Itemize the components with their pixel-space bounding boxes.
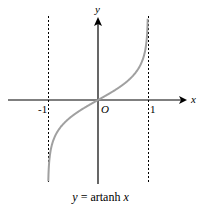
caption-x: x xyxy=(123,190,128,204)
x-axis-label: x xyxy=(191,94,196,105)
tick-label-pos1: 1 xyxy=(150,104,156,115)
caption-equation: = artanh xyxy=(78,190,124,204)
origin-label: O xyxy=(101,104,109,115)
tick-label-neg1: -1 xyxy=(38,104,47,115)
chart-caption: y = artanh x xyxy=(0,191,201,203)
y-axis-label: y xyxy=(95,4,100,15)
